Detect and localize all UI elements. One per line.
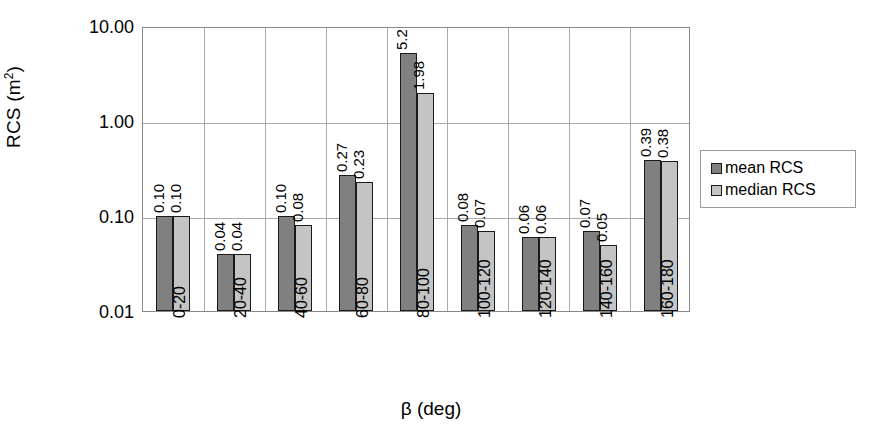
bar-value-label: 0.07 — [577, 199, 592, 228]
y-axis-title: RCS (m2) — [2, 0, 42, 148]
bar-value-label: 0.04 — [212, 222, 227, 251]
bar-group: 0.100.08 — [265, 28, 326, 311]
x-axis-title: β (deg) — [336, 398, 526, 420]
x-axis-tick-label-text: 120-140 — [538, 259, 554, 318]
bar-value-label: 5.2 — [394, 29, 409, 50]
x-axis-tick-label-text: 140-160 — [599, 259, 615, 318]
y-axis-tick-label: 10.00 — [46, 18, 134, 36]
bar-group: 0.100.10 — [143, 28, 204, 311]
legend-item-label: mean RCS — [725, 159, 803, 177]
bar-pair: 0.100.10 — [156, 28, 190, 311]
bar-value-label: 0.27 — [334, 143, 349, 172]
chart-legend: mean RCSmedian RCS — [700, 150, 856, 208]
legend-item[interactable]: median RCS — [711, 179, 855, 201]
bar-value-label: 0.39 — [638, 128, 653, 157]
bar-pair: 0.270.23 — [339, 28, 373, 311]
y-axis-title-text: RCS (m — [3, 79, 24, 148]
x-axis-tick-label: 120-140 — [507, 312, 568, 398]
bar-group: 0.040.04 — [204, 28, 265, 311]
x-axis-tick-label-text: 100-120 — [477, 259, 493, 318]
x-axis-tick-label: 140-160 — [568, 312, 629, 398]
rcs-bar-chart: RCS (m2) 10.001.000.100.01 0.100.100.040… — [0, 0, 892, 436]
bar-value-label: 0.05 — [594, 212, 609, 241]
bar-group: 0.270.23 — [326, 28, 387, 311]
bar-value-label: 0.23 — [351, 149, 366, 178]
legend-item-label: median RCS — [725, 181, 816, 199]
x-axis-tick-label-text: 0-20 — [172, 286, 188, 318]
x-axis-tick-label: 60-80 — [325, 312, 386, 398]
bar-value-label: 0.06 — [516, 205, 531, 234]
y-axis-title-superscript: 2 — [2, 72, 16, 79]
bar-value-label: 0.10 — [151, 184, 166, 213]
legend-swatch-median — [711, 185, 722, 196]
y-axis-tick-label: 1.00 — [46, 113, 134, 131]
bar-value-label: 0.10 — [168, 184, 183, 213]
y-axis-tick-labels: 10.001.000.100.01 — [38, 0, 134, 436]
bar-value-label: 1.98 — [411, 61, 426, 90]
x-axis-tick-label-text: 60-80 — [355, 277, 371, 318]
bar[interactable]: 0.39 — [644, 160, 661, 311]
bar-value-label: 0.10 — [273, 184, 288, 213]
legend-swatch-mean — [711, 163, 722, 174]
x-axis-tick-label: 80-100 — [386, 312, 447, 398]
x-axis-tick-label-text: 40-60 — [294, 277, 310, 318]
x-axis-tick-label-text: 80-100 — [416, 268, 432, 318]
bar-value-label: 0.06 — [533, 205, 548, 234]
x-axis-tick-label: 160-180 — [629, 312, 690, 398]
x-axis-tick-labels: 0-2020-4040-6060-8080-100100-120120-1401… — [142, 312, 690, 398]
y-axis-tick-label: 0.01 — [46, 303, 134, 321]
x-axis-tick-label: 20-40 — [203, 312, 264, 398]
y-axis-tick-label: 0.10 — [46, 208, 134, 226]
legend-item[interactable]: mean RCS — [711, 157, 855, 179]
bar-pair: 0.040.04 — [217, 28, 251, 311]
x-axis-tick-label: 40-60 — [264, 312, 325, 398]
x-axis-tick-label-text: 20-40 — [233, 277, 249, 318]
bar-value-label: 0.38 — [655, 129, 670, 158]
x-axis-tick-label: 0-20 — [142, 312, 203, 398]
x-axis-tick-label-text: 160-180 — [660, 259, 676, 318]
bar-pair: 0.100.08 — [278, 28, 312, 311]
bar-value-label: 0.07 — [472, 199, 487, 228]
x-axis-tick-label: 100-120 — [446, 312, 507, 398]
bar-value-label: 0.08 — [290, 193, 305, 222]
bar-value-label: 0.08 — [455, 193, 470, 222]
y-axis-title-tail: ) — [3, 66, 24, 73]
bar-value-label: 0.04 — [229, 222, 244, 251]
